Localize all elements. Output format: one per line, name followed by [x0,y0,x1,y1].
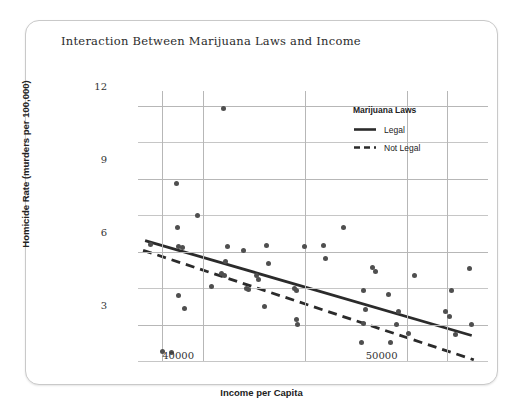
scatter-point [175,225,180,230]
scatter-point [386,292,391,297]
legend-entry-not-legal[interactable]: Not Legal [353,140,473,155]
scatter-point [195,213,200,218]
legend: Marijuana Laws Legal Not Legal [353,105,473,158]
scatter-point [321,243,326,248]
y-axis-tick-label: 3 [26,299,107,310]
x-axis-label: Income per Capita [26,387,497,398]
scatter-point [176,293,181,298]
scatter-point [148,242,153,247]
scatter-point [396,309,401,314]
y-axis-tick-label: 9 [26,153,107,164]
legend-label-not-legal: Not Legal [384,143,420,153]
gridline-horizontal [138,179,488,180]
scatter-point [394,322,399,327]
scatter-point [449,288,454,293]
scatter-point [373,269,378,274]
scatter-point [221,106,226,111]
scatter-point [264,243,269,248]
gridline-vertical [203,91,204,361]
gridline-vertical [305,91,306,361]
x-axis-tick-label: 50000 [366,350,398,361]
scatter-point [256,277,261,282]
x-axis-tick-label: 40000 [162,350,194,361]
legend-key-solid-line [353,124,377,135]
scatter-point [447,314,452,319]
scatter-point [223,259,228,264]
scatter-point [453,332,458,337]
page-title: Interaction Between Marijuana Laws and I… [61,34,361,48]
legend-key-dashed-line [353,142,377,153]
scatter-point [406,331,411,336]
trend-line-dashed [143,250,474,359]
legend-entry-legal[interactable]: Legal [353,122,473,137]
gridline-horizontal [138,252,488,253]
scatter-point [262,304,267,309]
gridline-horizontal [138,215,488,216]
gridline-vertical [162,91,163,361]
gridline-horizontal [138,325,488,326]
scatter-point [443,309,448,314]
gridline-horizontal [138,288,488,289]
y-axis-tick-label: 6 [26,226,107,237]
y-axis-tick-label: 12 [26,80,107,91]
legend-title: Marijuana Laws [353,105,473,115]
scatter-point [341,225,346,230]
legend-label-legal: Legal [384,125,405,135]
gridline-horizontal [138,361,488,362]
chart-card: Interaction Between Marijuana Laws and I… [25,20,498,385]
scatter-point [266,261,271,266]
